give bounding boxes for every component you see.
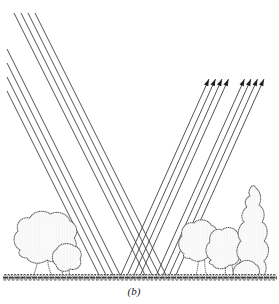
tree-group-right xyxy=(179,186,269,277)
ray-arrowhead xyxy=(246,79,251,86)
round-tree-2-canopy xyxy=(206,227,242,268)
ray-arrowhead xyxy=(204,79,209,86)
tree-group-left xyxy=(14,211,81,277)
ray-arrowhead xyxy=(211,79,216,86)
ground-line xyxy=(3,275,277,280)
ray-arrowhead xyxy=(240,79,245,86)
ray-arrowhead xyxy=(217,79,222,86)
ray-arrowhead xyxy=(224,79,229,86)
caption: (b) xyxy=(128,285,141,298)
ray-arrowhead xyxy=(259,79,264,86)
reflection-diagram: (b) xyxy=(0,0,279,304)
ray-arrowhead xyxy=(253,79,258,86)
figure-panel: (b) xyxy=(0,0,279,304)
